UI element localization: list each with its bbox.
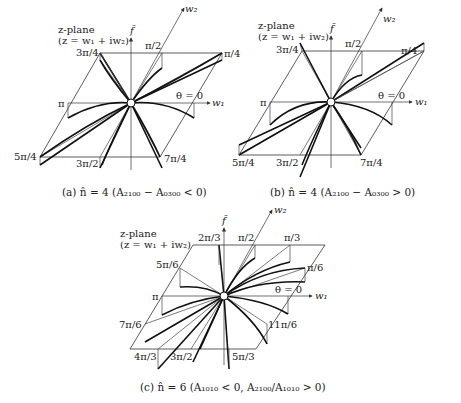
angle-label-3pi-2: 3π/2: [276, 157, 299, 168]
angle-label-pi: π: [260, 97, 267, 108]
figure-canvas: z-plane (z = w₁ + iw₂) f̃ w₂ w₁ θ = 0 π/…: [0, 0, 461, 403]
w1-axis-label: w₁: [212, 97, 225, 108]
angle-label-3pi-4: 3π/4: [76, 47, 99, 58]
f-axis-label: f̃: [221, 215, 228, 226]
angle-label-pi-2: π/2: [145, 40, 161, 51]
curve-branches: [239, 43, 424, 177]
angle-label-pi-2: π/2: [345, 38, 361, 49]
origin-marker: [220, 292, 228, 300]
angle-label-5pi-3: 5π/3: [232, 351, 255, 362]
angle-label-0: θ = 0: [176, 90, 203, 101]
z-plane-label: z-plane: [258, 20, 295, 31]
angle-label-pi-3: π/3: [284, 232, 300, 243]
w1-axis-label: w₁: [415, 96, 428, 107]
angle-label-7pi-4: 7π/4: [360, 157, 383, 168]
angle-label-0: θ = 0: [378, 90, 405, 101]
f-axis-label: f̃: [329, 23, 336, 34]
caption-c: (c) n̂ = 6 (A₁₀₁₀ < 0, A₂₁₀₀/A₁₀₁₀ > 0): [140, 381, 326, 393]
z-plane-equation: (z = w₁ + iw₂): [58, 35, 129, 46]
angle-label-4pi-3: 4π/3: [134, 351, 157, 362]
caption-b: (b) n̂ = 4 (A₂₁₀₀ − A₀₃₀₀ > 0): [270, 186, 415, 198]
w2-axis-label: w₂: [383, 13, 396, 24]
z-plane-label: z-plane: [58, 24, 95, 35]
angle-label-pi: π: [58, 98, 65, 109]
z-plane-label: z-plane: [120, 228, 157, 239]
angle-label-3pi-4: 3π/4: [276, 44, 299, 55]
angle-label-pi-6: π/6: [307, 262, 323, 273]
f-axis-label: f̃: [129, 25, 136, 36]
origin-marker: [127, 99, 135, 107]
angle-label-5pi-4: 5π/4: [232, 157, 255, 168]
w1-axis-label: w₁: [315, 290, 328, 301]
angle-label-7pi-4: 7π/4: [164, 153, 187, 164]
caption-a: (a) n̂ = 4 (A₂₁₀₀ − A₀₃₀₀ < 0): [62, 186, 207, 198]
z-plane-equation: (z = w₁ + iw₂): [258, 31, 329, 42]
angle-label-pi-2: π/2: [238, 232, 254, 243]
angle-label-11pi-6: 11π/6: [268, 319, 297, 330]
angle-label-7pi-6: 7π/6: [119, 319, 142, 330]
panel-c: z-plane (z = w₁ + iw₂) f̃ w₂ w₁ θ = 0 π/…: [119, 204, 328, 393]
angle-label-5pi-4: 5π/4: [14, 151, 37, 162]
angle-label-5pi-6: 5π/6: [156, 259, 179, 270]
z-plane-equation: (z = w₁ + iw₂): [120, 239, 191, 250]
angle-label-pi-4: π/4: [401, 45, 417, 56]
panel-a: z-plane (z = w₁ + iw₂) f̃ w₂ w₁ θ = 0 π/…: [14, 3, 240, 198]
w2-axis-label: w₂: [274, 204, 287, 215]
angle-label-pi-4: π/4: [224, 48, 240, 59]
w2-axis-label: w₂: [185, 3, 198, 14]
angle-label-3pi-2: 3π/2: [170, 351, 193, 362]
angle-label-0: θ = 0: [275, 284, 302, 295]
panel-b: z-plane (z = w₁ + iw₂) f̃ w₂ w₁ π/4 θ = …: [232, 8, 428, 198]
angle-label-3pi-2: 3π/2: [76, 158, 99, 169]
origin-marker: [327, 98, 335, 106]
angle-label-pi: π: [152, 291, 159, 302]
angle-label-2pi-3: 2π/3: [198, 232, 221, 243]
